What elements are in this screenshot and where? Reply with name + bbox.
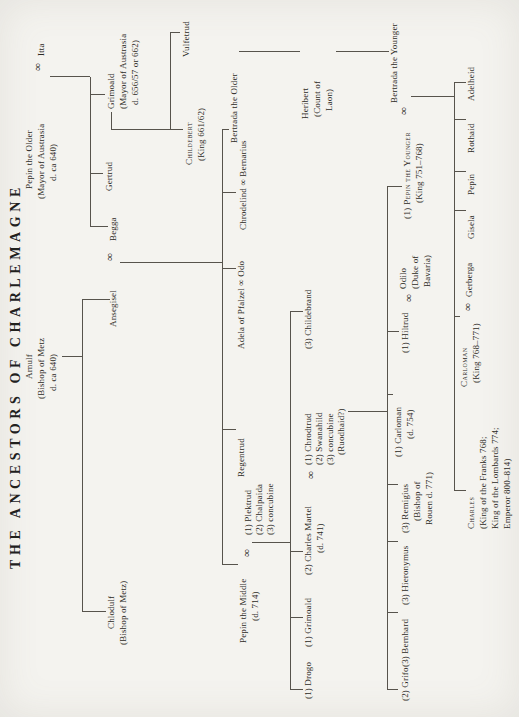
book-page: THE ANCESTORS OF CHARLEMAGNE Arnulf(Bish… (0, 0, 519, 717)
pepin-middle-marriage-symbol: ∞ (242, 549, 251, 557)
connector-line (82, 611, 106, 612)
connector-line (387, 187, 388, 690)
connector-line (239, 51, 300, 52)
connector-line (252, 542, 290, 543)
ansegisel-name: Ansegisel (108, 290, 118, 327)
grimoald-note-2: d. 656/57 or 662) (130, 40, 140, 105)
connector-line (50, 76, 90, 77)
connector-line (290, 312, 291, 690)
hiltrud-marriage-symbol: ∞ (404, 294, 413, 302)
connector-line (90, 226, 108, 227)
connector-line (454, 490, 466, 491)
connector-line (90, 77, 91, 227)
connector-line (387, 331, 399, 332)
carloman-marriage-symbol: ∞ (463, 303, 472, 311)
childebert-name: Childebert (184, 122, 194, 165)
connector-line (222, 129, 229, 130)
remigius-note-2: Rouen d. 771) (424, 472, 434, 525)
chlodulf-note: (Bishop of Metz) (118, 581, 128, 645)
connector-line (90, 173, 103, 174)
carloman-754-name: (1) Carloman (393, 407, 403, 457)
pepin-younger-name: (1) Pepin the Younger (402, 132, 412, 219)
gertrud-name: Gertrud (104, 162, 114, 191)
concubine-of-pepin-middle: (3) concubine (265, 483, 275, 535)
connector-line (454, 82, 466, 83)
connector-line (82, 299, 110, 300)
hieronymus-name: (3) Hieronymus (400, 546, 410, 605)
pepin-older-note-1: (Mayor of Austrasia (36, 124, 46, 199)
connector-line (90, 94, 105, 95)
arnulf-note-1: (Bishop of Metz (36, 338, 46, 399)
swanahild-name: (2) Swanahild (314, 412, 324, 465)
grimoald-ii-name: (1) Grimoald (303, 598, 313, 647)
connector-line (222, 429, 236, 430)
connector-line (454, 119, 466, 120)
adela-of-pfalzel-name: Adela of Pfalzel ∞ Odo (236, 261, 246, 349)
connector-line (120, 262, 222, 263)
pepin-middle-name: Pepin the Middle (238, 579, 248, 643)
pepin-younger-note: (King 751–768) (414, 143, 424, 203)
carloman-king-note: (King 768–771) (471, 323, 481, 383)
connector-line (454, 83, 455, 491)
connector-line (222, 268, 236, 269)
ruodhaid-name: (Ruodhaid?) (336, 408, 346, 455)
vulfetrud-name: Vulfetrud (181, 21, 191, 57)
bertrada-older-name: Bertrada the Older (229, 73, 239, 143)
charles-note-1: (King of the Franks 768; (478, 436, 488, 529)
pepin-older-name: Pepin the Older (24, 130, 34, 189)
arnulf-name: Arnulf (24, 354, 34, 379)
charles-martel-name: (2) Charles Martel (303, 506, 313, 575)
plektrud-name: (1) Plektrud (243, 490, 253, 535)
odilo-name: Odilo (398, 268, 408, 289)
concubine-of-charles-martel: (3) concubine (325, 413, 335, 465)
carloman-king-name: Carloman (459, 347, 469, 387)
ansegisel-marriage-symbol: ∞ (105, 253, 114, 261)
odilo-note-2: Bavaria) (422, 255, 432, 287)
connector-line (290, 617, 303, 618)
connector-line (222, 192, 236, 193)
page-title: THE ANCESTORS OF CHARLEMAGNE (8, 183, 24, 569)
connector-line (222, 130, 223, 565)
connector-line (290, 551, 303, 552)
connector-line (387, 186, 402, 187)
remigius-note-1: (Bishop of (412, 481, 422, 521)
connector-line (411, 96, 454, 97)
connector-line (111, 112, 112, 130)
remigius-name: (3) Remigius (400, 484, 410, 533)
connector-line (82, 300, 83, 612)
connector-line (348, 411, 387, 412)
pepin-older-marriage-symbol: ∞ (33, 63, 42, 71)
chlodulf-name: Chlodulf (106, 596, 116, 629)
family-tree-canvas: THE ANCESTORS OF CHARLEMAGNE Arnulf(Bish… (0, 0, 519, 717)
charles-martel-note: (d. 741) (315, 523, 325, 553)
connector-line (387, 612, 398, 613)
pepin-middle-note: (d. 714) (250, 591, 260, 621)
connector-line (170, 32, 180, 33)
adelheid-name: Adelheid (466, 67, 476, 101)
childebert-note: (King 661/62) (196, 108, 206, 161)
chalpaida-name: (2) Chalpaida (254, 484, 264, 535)
connector-line (170, 33, 171, 130)
pepin-older-note-2: d. ca 640) (48, 144, 58, 181)
pepin-son-name: Pepin (466, 174, 476, 195)
odilo-note-1: (Duke of (410, 256, 420, 289)
connector-line (290, 689, 303, 690)
bertrada-younger-name: Bertrada the Younger (389, 23, 399, 103)
rothaid-name: Rothaid (466, 123, 476, 153)
chrodtrud-name: (1) Chrodtrud (303, 413, 313, 465)
regentrud-name: Regentrud (236, 438, 246, 477)
connector-line (111, 129, 183, 130)
gisela-name: Gisela (466, 215, 476, 239)
grimoald-name: Grimoald (106, 73, 116, 109)
charles-martel-marriage-symbol: ∞ (306, 471, 315, 479)
carloman-754-note: (d. 754) (405, 409, 415, 439)
connector-line (454, 171, 466, 172)
charles-note-2: King of the Lombards 774; (490, 427, 500, 529)
pepin-younger-marriage-symbol: ∞ (399, 107, 408, 115)
connector-line (336, 51, 389, 52)
heribert-note-1: (Count of (312, 81, 322, 117)
connector-line (222, 564, 238, 565)
connector-line (454, 210, 466, 211)
gerberga-name: Gerberga (464, 262, 474, 297)
connector-line (62, 356, 82, 357)
